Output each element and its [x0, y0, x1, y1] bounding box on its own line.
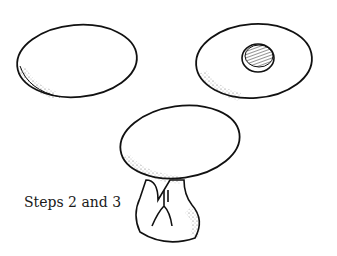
- egg-on-stand: [116, 98, 245, 242]
- figure-caption: Steps 2 and 3: [24, 194, 121, 210]
- illustration: [0, 0, 337, 256]
- egg-with-hole: [194, 20, 315, 102]
- hole-icon: [242, 44, 274, 72]
- plain-egg: [14, 20, 140, 102]
